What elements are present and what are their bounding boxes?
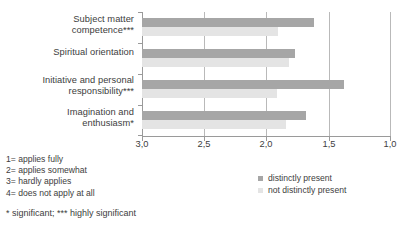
legend-item-distinctly-present: distinctly present <box>258 172 346 184</box>
x-tick-label-1: 2,5 <box>198 139 211 149</box>
gridline-1.0 <box>390 12 391 136</box>
legend-swatch-icon <box>258 188 263 193</box>
legend-item-not-distinctly-present: not distinctly present <box>258 184 346 196</box>
legend-label: distinctly present <box>268 172 332 184</box>
category-label-2: Initiative and personal responsibility**… <box>0 75 134 96</box>
category-label-line: responsibility*** <box>0 86 134 97</box>
category-tick-0 <box>138 12 142 13</box>
bar-distinctly-present-3 <box>142 111 306 120</box>
category-label-line: Spiritual orientation <box>0 47 134 58</box>
bar-not-distinctly-present-2 <box>142 89 277 98</box>
category-label-line: Initiative and personal <box>0 75 134 86</box>
category-tick-1 <box>138 43 142 44</box>
legend-swatch-icon <box>258 176 263 181</box>
category-tick-4 <box>138 135 142 136</box>
scale-key-line-4: 4= does not apply at all <box>6 188 95 199</box>
legend-label: not distinctly present <box>268 184 346 196</box>
category-label-line: enthusiasm* <box>0 118 134 129</box>
chart-figure: Subject matter competence*** Spiritual o… <box>0 0 408 229</box>
scale-key-line-1: 1= applies fully <box>6 154 95 165</box>
chart-legend: distinctly present not distinctly presen… <box>258 172 346 196</box>
category-label-line: Imagination and <box>0 107 134 118</box>
category-label-0: Subject matter competence*** <box>0 14 134 35</box>
x-tick-label-2: 2,0 <box>260 139 273 149</box>
bar-distinctly-present-0 <box>142 18 314 27</box>
category-axis-labels: Subject matter competence*** Spiritual o… <box>0 12 138 136</box>
plot-area <box>142 12 391 136</box>
gridline-1.5 <box>329 12 330 136</box>
bar-not-distinctly-present-3 <box>142 120 286 129</box>
x-axis-tick-labels: 3,0 2,5 2,0 1,5 1,0 <box>142 139 391 153</box>
bar-not-distinctly-present-1 <box>142 58 289 67</box>
category-tick-3 <box>138 105 142 106</box>
scale-key-line-2: 2= applies somewhat <box>6 165 95 176</box>
scale-key-line-3: 3= hardly applies <box>6 176 95 187</box>
x-tick-label-3: 1,5 <box>323 139 336 149</box>
category-label-line: Subject matter <box>0 14 134 25</box>
significance-footnote: * significant; *** highly significant <box>6 208 136 218</box>
category-label-line: competence*** <box>0 25 134 36</box>
bar-distinctly-present-2 <box>142 80 344 89</box>
scale-key: 1= applies fully 2= applies somewhat 3= … <box>6 154 95 199</box>
category-label-3: Imagination and enthusiasm* <box>0 107 134 128</box>
bar-distinctly-present-1 <box>142 49 295 58</box>
x-tick-label-0: 3,0 <box>136 139 149 149</box>
category-tick-2 <box>138 74 142 75</box>
bar-not-distinctly-present-0 <box>142 27 278 36</box>
x-tick-label-4: 1,0 <box>384 139 397 149</box>
category-label-1: Spiritual orientation <box>0 47 134 58</box>
